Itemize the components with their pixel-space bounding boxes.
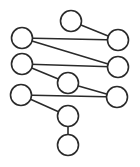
- node-circle-n10: [58, 135, 79, 156]
- node-circle-n1: [61, 11, 82, 32]
- edge-n4-n5: [22, 64, 118, 67]
- edge-n7-n8: [21, 95, 117, 97]
- node-circle-n8: [107, 87, 128, 108]
- edge-n2-n3: [22, 38, 118, 40]
- node-circle-n7: [11, 85, 32, 106]
- node-circle-n5: [108, 57, 129, 78]
- node-graph-diagram: [0, 0, 140, 167]
- node-circle-n2: [12, 28, 33, 49]
- node-circle-n4: [12, 54, 33, 75]
- node-circle-n6: [58, 73, 79, 94]
- nodes-group: [11, 11, 129, 156]
- node-circle-n3: [108, 30, 129, 51]
- node-circle-n9: [58, 106, 79, 127]
- edge-n2-n5: [22, 38, 118, 67]
